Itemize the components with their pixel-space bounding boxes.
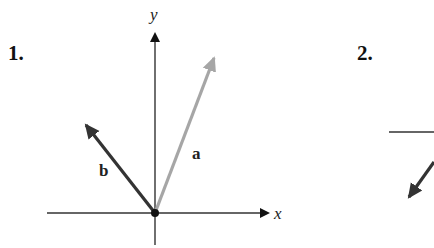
vector-a bbox=[155, 58, 214, 213]
panel-2-vector bbox=[409, 162, 434, 197]
panel-2: 2. bbox=[357, 41, 434, 197]
y-axis-label: y bbox=[148, 5, 158, 24]
vector-b-label: b bbox=[99, 161, 108, 180]
x-axis-label: x bbox=[273, 204, 282, 223]
vector-a-label: a bbox=[192, 144, 201, 163]
panel-number-1: 1. bbox=[8, 41, 24, 65]
origin-point bbox=[151, 209, 159, 217]
panel-1: 1. x y a b bbox=[8, 5, 282, 245]
panel-number-2: 2. bbox=[357, 41, 373, 65]
vector-b bbox=[86, 125, 155, 213]
vector-diagram: 1. x y a b 2. bbox=[0, 0, 434, 248]
